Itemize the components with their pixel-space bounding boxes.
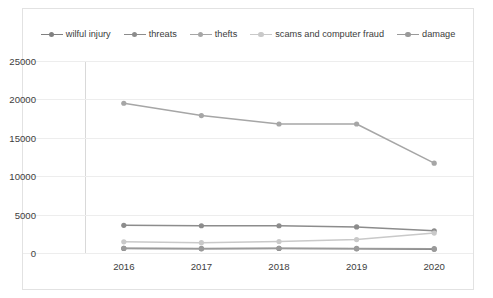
data-point[interactable] bbox=[276, 223, 281, 228]
x-tick-label-2019: 2019 bbox=[346, 261, 367, 272]
x-tick-label-2018: 2018 bbox=[268, 261, 289, 272]
data-point[interactable] bbox=[121, 101, 126, 106]
data-point[interactable] bbox=[199, 246, 204, 251]
legend-marker-icon bbox=[397, 31, 419, 39]
data-point[interactable] bbox=[276, 246, 281, 251]
legend-dot bbox=[258, 32, 264, 38]
legend-item-threats[interactable]: threats bbox=[124, 30, 177, 39]
legend-dot bbox=[198, 32, 204, 38]
legend-marker-icon bbox=[41, 31, 63, 39]
legend-item-damage[interactable]: damage bbox=[397, 30, 455, 39]
legend-item-label: damage bbox=[422, 30, 455, 39]
data-point[interactable] bbox=[199, 240, 204, 245]
legend-item-scams-and-computer-fraud[interactable]: scams and computer fraud bbox=[250, 30, 384, 39]
y-tick-label-10000: 10000 bbox=[9, 171, 36, 182]
data-point[interactable] bbox=[121, 239, 126, 244]
legend-dot bbox=[405, 32, 411, 38]
data-point[interactable] bbox=[199, 113, 204, 118]
x-tick-label-2020: 2020 bbox=[424, 261, 445, 272]
data-point[interactable] bbox=[432, 161, 437, 166]
data-point[interactable] bbox=[354, 224, 359, 229]
chart-legend: wilful injurythreatstheftsscams and comp… bbox=[23, 30, 473, 39]
series-layer bbox=[85, 61, 473, 253]
y-tick-label-0: 0 bbox=[31, 248, 36, 259]
series-line bbox=[124, 103, 434, 163]
y-tick-label-25000: 25000 bbox=[9, 56, 36, 67]
legend-item-wilful-injury[interactable]: wilful injury bbox=[41, 30, 111, 39]
y-tick-label-5000: 5000 bbox=[15, 209, 36, 220]
legend-marker-icon bbox=[250, 31, 272, 39]
x-tick-label-2017: 2017 bbox=[191, 261, 212, 272]
series-thefts bbox=[121, 101, 437, 166]
plot-area bbox=[85, 61, 473, 253]
legend-item-label: wilful injury bbox=[66, 30, 111, 39]
data-point[interactable] bbox=[121, 223, 126, 228]
legend-item-label: thefts bbox=[215, 30, 237, 39]
data-point[interactable] bbox=[432, 246, 437, 251]
y-tick-label-20000: 20000 bbox=[9, 94, 36, 105]
legend-dot bbox=[49, 32, 55, 38]
legend-item-label: threats bbox=[149, 30, 177, 39]
chart-container: wilful injurythreatstheftsscams and comp… bbox=[22, 8, 474, 290]
data-point[interactable] bbox=[276, 121, 281, 126]
x-tick-label-2016: 2016 bbox=[113, 261, 134, 272]
legend-dot bbox=[132, 32, 138, 38]
data-point[interactable] bbox=[121, 246, 126, 251]
legend-marker-icon bbox=[190, 31, 212, 39]
data-point[interactable] bbox=[432, 230, 437, 235]
series-scams-and-computer-fraud bbox=[121, 230, 437, 245]
legend-item-thefts[interactable]: thefts bbox=[190, 30, 237, 39]
data-point[interactable] bbox=[354, 121, 359, 126]
data-point[interactable] bbox=[354, 237, 359, 242]
y-tick-label-15000: 15000 bbox=[9, 132, 36, 143]
data-point[interactable] bbox=[354, 246, 359, 251]
legend-marker-icon bbox=[124, 31, 146, 39]
series-damage bbox=[121, 246, 437, 252]
data-point[interactable] bbox=[276, 239, 281, 244]
series-threats bbox=[121, 223, 437, 234]
data-point[interactable] bbox=[199, 223, 204, 228]
legend-item-label: scams and computer fraud bbox=[275, 30, 384, 39]
gridline-0 bbox=[23, 253, 473, 254]
